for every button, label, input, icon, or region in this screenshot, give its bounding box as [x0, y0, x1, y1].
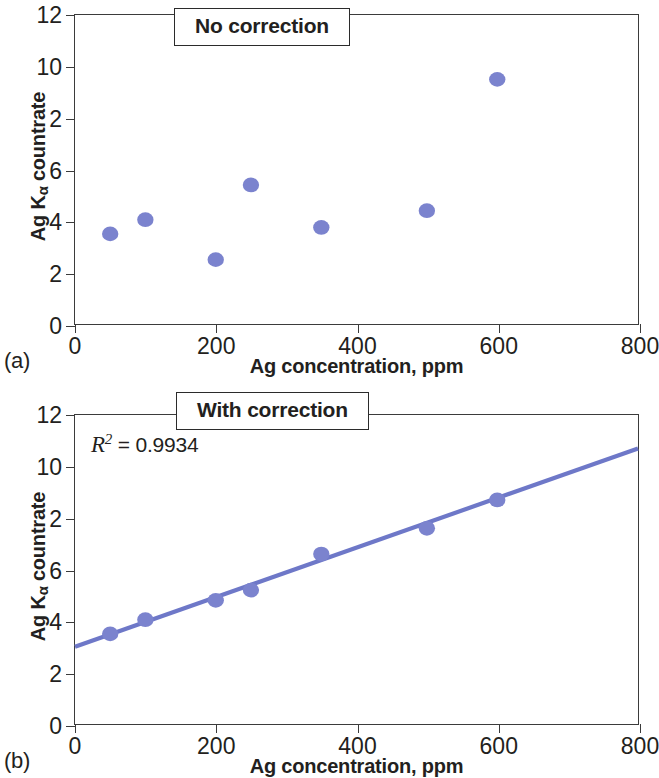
x-axis-tick — [358, 324, 359, 333]
x-axis-tick — [216, 324, 217, 333]
data-point — [102, 627, 118, 642]
y-axis-tick-label: 12 — [36, 4, 62, 27]
scatter-markers-with-correction — [75, 415, 638, 724]
r-squared-symbol: R — [91, 432, 105, 457]
y-axis-tick-label: 2 — [49, 507, 62, 530]
y-axis-title-a-tail: countrate — [27, 92, 49, 187]
data-point — [137, 212, 153, 227]
data-point — [208, 593, 224, 608]
plot-caption-with-correction: With correction — [176, 392, 369, 430]
y-axis-tick — [66, 571, 75, 572]
x-axis-tick — [75, 724, 76, 733]
y-axis-tick-label: 2 — [49, 663, 62, 686]
x-axis-tick — [216, 724, 217, 733]
y-axis-tick-label: 2 — [49, 263, 62, 286]
x-axis-tick — [358, 724, 359, 733]
y-axis-tick — [66, 171, 75, 172]
y-axis-tick — [66, 119, 75, 120]
y-axis-tick-label: 4 — [49, 611, 62, 634]
y-axis-title-a: Ag Kα countrate — [27, 57, 50, 277]
y-axis-title-a-main: Ag K — [27, 195, 49, 241]
data-point — [243, 583, 259, 598]
y-axis-tick — [66, 674, 75, 675]
data-point — [489, 493, 505, 508]
panel-b: 0246210120200400600800 R2 = 0.9934 With … — [0, 386, 653, 774]
x-axis-title-b: Ag concentration, ppm — [74, 755, 639, 778]
x-axis-tick — [640, 324, 641, 333]
y-axis-tick-label: 6 — [49, 559, 62, 582]
y-axis-tick — [66, 274, 75, 275]
x-axis-tick — [499, 324, 500, 333]
y-axis-tick — [66, 415, 75, 416]
y-axis-tick — [66, 519, 75, 520]
y-axis-tick-label: 12 — [36, 404, 62, 427]
y-axis-title-b-tail: countrate — [27, 492, 49, 587]
regression-line — [75, 448, 638, 646]
y-axis-title-b-main: Ag K — [27, 595, 49, 641]
y-axis-tick — [66, 467, 75, 468]
y-axis-tick — [66, 67, 75, 68]
x-axis-title-a: Ag concentration, ppm — [74, 355, 639, 378]
y-axis-title-a-sub: α — [35, 186, 51, 195]
y-axis-tick-label: 2 — [49, 107, 62, 130]
y-axis-title-b-sub: α — [35, 586, 51, 595]
y-axis-tick-label: 0 — [49, 715, 62, 738]
panel-letter-a: (a) — [4, 348, 30, 374]
y-axis-tick — [66, 222, 75, 223]
y-axis-tick-label: 0 — [49, 315, 62, 338]
data-point — [313, 547, 329, 562]
data-point — [102, 227, 118, 242]
plot-area-no-correction: 0246210120200400600800 — [74, 14, 639, 325]
x-axis-tick — [75, 324, 76, 333]
y-axis-tick — [66, 326, 75, 327]
data-point — [137, 612, 153, 627]
r-squared-annotation: R2 = 0.9934 — [91, 431, 199, 458]
y-axis-tick-label: 6 — [49, 159, 62, 182]
data-point — [419, 521, 435, 536]
panel-a: 0246210120200400600800 No correction Ag … — [0, 0, 653, 388]
r-squared-value: = 0.9934 — [112, 433, 198, 456]
y-axis-tick — [66, 726, 75, 727]
data-point — [243, 178, 259, 193]
panel-letter-b: (b) — [4, 748, 30, 774]
data-point — [419, 203, 435, 218]
data-point — [313, 220, 329, 235]
data-point — [489, 72, 505, 87]
x-axis-tick — [640, 724, 641, 733]
y-axis-tick-label: 4 — [49, 211, 62, 234]
plot-caption-no-correction: No correction — [174, 8, 350, 46]
data-point — [208, 252, 224, 267]
y-axis-title-b: Ag Kα countrate — [27, 457, 50, 677]
x-axis-tick — [499, 724, 500, 733]
y-axis-tick — [66, 622, 75, 623]
plot-area-with-correction: 0246210120200400600800 R2 = 0.9934 — [74, 414, 639, 725]
scatter-markers-no-correction — [75, 15, 638, 324]
y-axis-tick — [66, 15, 75, 16]
